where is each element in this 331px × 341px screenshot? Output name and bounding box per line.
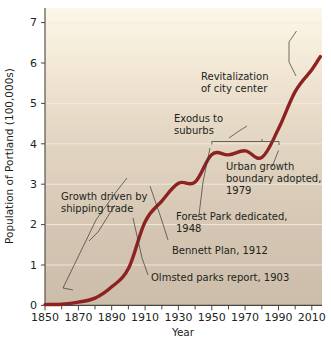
annotation-line: shipping trade (61, 203, 133, 214)
x-tick-label: 1990 (265, 311, 293, 324)
y-tick-label: 1 (30, 259, 37, 272)
population-line-chart: 7 6 5 4 3 2 1 0 Population of Portland (… (0, 0, 331, 341)
y-tick-label: 3 (30, 178, 37, 191)
x-tick-label: 1890 (98, 311, 126, 324)
annotation-line: Exodus to (174, 113, 223, 124)
x-tick-label: 1910 (131, 311, 159, 324)
annotation-olmsted-parks-report: Olmsted parks report, 1903 (151, 272, 289, 283)
annotation-revitalization-of-city-center: Revitalization of city center (201, 71, 269, 94)
annotation-line: 1948 (176, 223, 201, 234)
annotation-line: boundary adopted, (226, 173, 321, 184)
x-tick-label: 2010 (298, 311, 326, 324)
y-tick-label: 4 (30, 138, 37, 151)
annotation-line: Urban growth (226, 161, 294, 172)
y-tick-label: 2 (30, 218, 37, 231)
plot-background (45, 8, 322, 305)
annotation-line: 1979 (226, 185, 251, 196)
y-tick-label: 6 (30, 57, 37, 70)
x-tick-label: 1970 (231, 311, 259, 324)
x-tick-label: 1950 (198, 311, 226, 324)
annotation-line: Bennett Plan, 1912 (172, 245, 268, 256)
chart-figure: 7 6 5 4 3 2 1 0 Population of Portland (… (0, 0, 331, 341)
annotation-bennett-plan: Bennett Plan, 1912 (172, 245, 268, 256)
x-tick-label: 1850 (31, 311, 59, 324)
annotation-line: Growth driven by (61, 191, 148, 202)
x-axis-title: Year (171, 326, 195, 338)
annotation-line: Olmsted parks report, 1903 (151, 272, 289, 283)
y-axis-ticks (41, 23, 45, 306)
y-tick-label: 7 (30, 16, 37, 29)
annotation-line: Forest Park dedicated, (176, 211, 288, 222)
y-axis-tick-labels: 7 6 5 4 3 2 1 0 (30, 16, 37, 312)
annotation-line: Revitalization (201, 71, 269, 82)
annotation-line: of city center (201, 83, 268, 94)
x-axis-tick-labels: 1850 1870 1890 1910 1930 1950 1970 1990 … (31, 311, 326, 324)
x-tick-label: 1870 (64, 311, 92, 324)
annotation-line: suburbs (174, 125, 214, 136)
y-axis-title: Population of Portland (100,000s) (3, 68, 15, 244)
x-tick-label: 1930 (164, 311, 192, 324)
y-tick-label: 5 (30, 97, 37, 110)
